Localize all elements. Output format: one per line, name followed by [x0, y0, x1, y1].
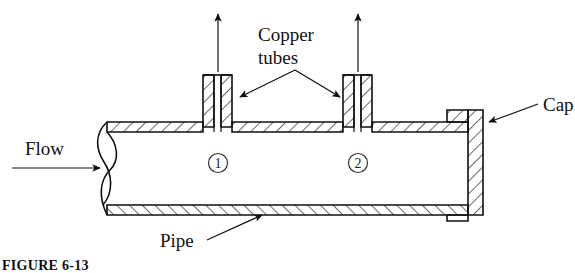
- station-1-label: 1: [215, 156, 222, 171]
- copper-tubes-label-line1: Copper: [258, 24, 315, 45]
- copper-tube-2: [343, 75, 372, 132]
- pipe-top-wall: [107, 122, 468, 132]
- pipe-break-line: [98, 122, 117, 215]
- pipe-leader-arrow: [207, 215, 262, 240]
- station-2-label: 2: [355, 156, 362, 171]
- flow-label: Flow: [25, 138, 64, 159]
- piping-diagram: 1 2 Copper tubes Cap Flow Pipe FIGURE 6-…: [0, 0, 575, 273]
- station-marker-2: 2: [349, 154, 368, 173]
- pipe-label: Pipe: [160, 230, 194, 251]
- copper-tubes-label-line2: tubes: [258, 47, 298, 68]
- copper-leader-right-arrow: [295, 70, 340, 97]
- cap-leader-arrow: [489, 104, 538, 122]
- station-marker-1: 1: [209, 154, 228, 173]
- figure-caption: FIGURE 6-13: [2, 258, 89, 273]
- pipe-bottom-wall: [107, 205, 468, 215]
- cap-label: Cap: [543, 94, 574, 115]
- figure-container: 1 2 Copper tubes Cap Flow Pipe FIGURE 6-…: [0, 0, 575, 273]
- copper-leader-left-arrow: [240, 70, 295, 97]
- copper-tube-1: [203, 75, 232, 132]
